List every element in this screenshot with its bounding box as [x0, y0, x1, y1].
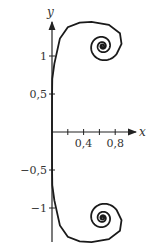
svg-text:−1: −1 [31, 202, 47, 215]
svg-text:0,4: 0,4 [75, 137, 93, 150]
y-ticks: 10,5−0,5−1 [20, 50, 55, 215]
chart: 0,40,8 10,5−0,5−1 x y [0, 0, 150, 250]
spiral-curve-upper [52, 22, 122, 132]
svg-text:−0,5: −0,5 [20, 164, 47, 177]
svg-text:0,5: 0,5 [30, 88, 48, 101]
svg-text:1: 1 [40, 50, 47, 63]
svg-text:0,8: 0,8 [106, 137, 124, 150]
y-axis-label: y [46, 5, 54, 19]
x-axis-label: x [139, 125, 146, 139]
